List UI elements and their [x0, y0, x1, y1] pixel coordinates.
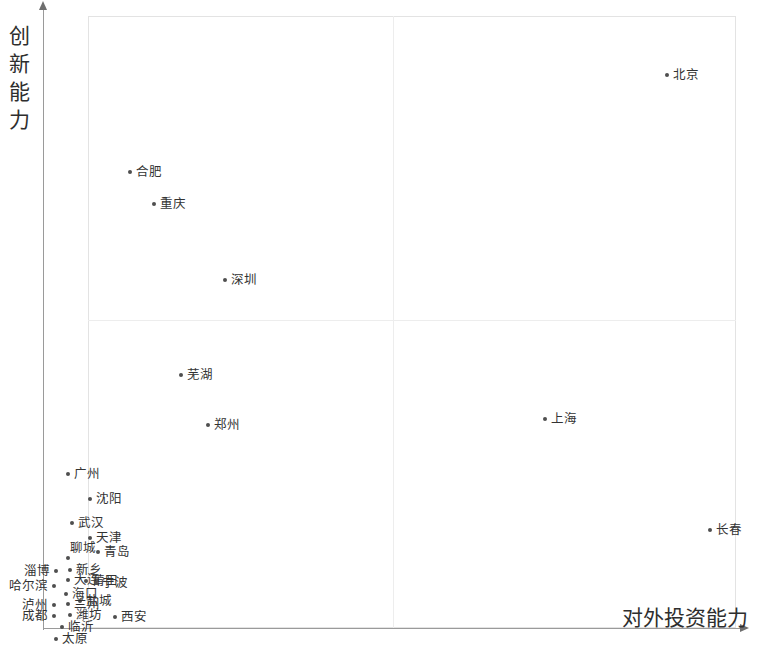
data-point-label: 合肥: [136, 164, 162, 179]
data-point-marker: [64, 592, 68, 596]
data-point-marker: [52, 584, 56, 588]
data-point-label: 西安: [121, 609, 147, 624]
data-point-label: 天津: [96, 530, 122, 545]
x-axis-title: 对外投资能力: [622, 604, 748, 632]
data-point-marker: [66, 472, 70, 476]
data-point-label: 青岛: [104, 544, 130, 559]
data-point-marker: [66, 556, 70, 560]
data-point-label: 深圳: [231, 272, 257, 287]
scatter-chart: 创新能力 对外投资能力 北京合肥重庆深圳芜湖郑州上海广州沈阳长春武汉天津青岛聊城…: [0, 0, 764, 654]
quadrant-divider-horizontal: [88, 320, 736, 321]
quadrant-divider-vertical: [393, 16, 394, 628]
data-point-label: 广州: [74, 466, 100, 481]
y-axis-title: 创新能力: [4, 22, 34, 134]
data-point-label: 芜湖: [187, 367, 213, 382]
data-point-label: 郑州: [214, 417, 240, 432]
data-point-label: 太原: [62, 631, 88, 646]
data-point-label: 沈阳: [96, 491, 122, 506]
data-point-marker: [54, 637, 58, 641]
data-point-marker: [52, 603, 56, 607]
data-point-marker: [68, 613, 72, 617]
y-axis-arrow-icon: [39, 1, 47, 10]
data-point-label: 淄博: [24, 563, 50, 578]
data-point-marker: [68, 568, 72, 572]
data-point-marker: [66, 578, 70, 582]
data-point-marker: [70, 521, 74, 525]
data-point-label: 北京: [673, 67, 699, 82]
data-point-label: 成都: [22, 608, 48, 623]
data-point-label: 哈尔滨: [9, 578, 48, 593]
y-axis-line: [43, 10, 44, 630]
data-point-label: 武汉: [78, 515, 104, 530]
data-point-label: 聊城: [70, 540, 96, 555]
data-point-label: 宁波: [102, 575, 128, 590]
data-point-marker: [66, 602, 70, 606]
data-point-marker: [54, 569, 58, 573]
data-point-label: 上海: [551, 411, 577, 426]
data-point-label: 重庆: [160, 196, 186, 211]
plot-area-frame: [88, 16, 736, 628]
data-point-label: 长春: [716, 522, 742, 537]
data-point-marker: [52, 614, 56, 618]
